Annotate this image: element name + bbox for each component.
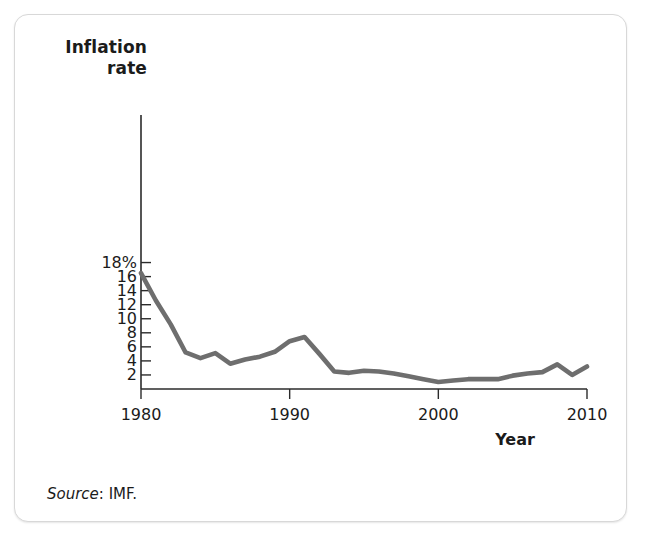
figure-card: Inflation rate 24681012141618% 198019902…: [14, 14, 627, 522]
x-tick-label-1980: 1980: [104, 407, 178, 423]
source-label: Source: [47, 485, 99, 503]
x-axis-title: Year: [455, 430, 575, 449]
x-tick-label-2010: 2010: [550, 407, 624, 423]
x-tick-label-2000: 2000: [401, 407, 475, 423]
source-note: Source: IMF.: [47, 485, 137, 503]
x-tick-label-1990: 1990: [253, 407, 327, 423]
source-separator: :: [99, 485, 109, 503]
source-value: IMF.: [109, 485, 137, 503]
